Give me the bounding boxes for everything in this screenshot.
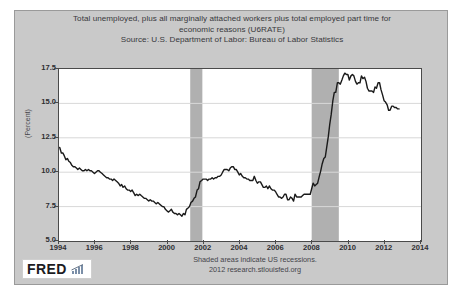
x-tick-label: 2008 (291, 243, 331, 252)
y-tick-label: 15.0 (22, 97, 56, 106)
plot-area (58, 68, 422, 242)
x-tick-label: 1994 (38, 243, 78, 252)
x-tick-label: 1998 (110, 243, 150, 252)
x-tick-label: 2012 (364, 243, 404, 252)
chart-source-line: Source: U.S. Department of Labor: Bureau… (22, 35, 442, 46)
y-tick-mark (54, 137, 58, 138)
y-tick-mark (54, 206, 58, 207)
x-tick-mark (311, 240, 312, 244)
y-tick-mark (54, 68, 58, 69)
chart-title-line-2: economic reasons (U6RATE) (22, 25, 442, 36)
x-tick-mark (58, 240, 59, 244)
x-tick-mark (239, 240, 240, 244)
x-tick-mark (130, 240, 131, 244)
x-tick-mark (348, 240, 349, 244)
x-tick-label: 2014 (400, 243, 440, 252)
y-tick-label: 17.5 (22, 63, 56, 72)
x-tick-label: 2000 (147, 243, 187, 252)
x-tick-label: 2004 (219, 243, 259, 252)
x-tick-label: 2006 (255, 243, 295, 252)
x-tick-mark (167, 240, 168, 244)
x-tick-label: 1996 (74, 243, 114, 252)
series-U6RATE (60, 73, 399, 216)
bar-chart-icon (71, 264, 84, 275)
footer-recession-note: Shaded areas indicate US recessions. (120, 255, 390, 265)
chart-title-block: Total unemployed, plus all marginally at… (22, 14, 442, 46)
fred-logo[interactable]: FRED (22, 259, 92, 279)
x-tick-label: 2002 (183, 243, 223, 252)
chart-title-line-1: Total unemployed, plus all marginally at… (22, 14, 442, 25)
x-tick-mark (203, 240, 204, 244)
fred-chart-screenshot: Total unemployed, plus all marginally at… (0, 0, 465, 295)
series-line (60, 73, 399, 216)
y-tick-mark (54, 102, 58, 103)
recession-bands (190, 69, 339, 241)
x-tick-mark (275, 240, 276, 244)
gridlines (59, 103, 421, 206)
recession-band (190, 69, 202, 241)
x-tick-label: 2010 (328, 243, 368, 252)
y-tick-label: 12.5 (22, 132, 56, 141)
x-tick-mark (94, 240, 95, 244)
x-tick-mark (384, 240, 385, 244)
fred-logo-text: FRED (27, 261, 67, 277)
y-tick-label: 10.0 (22, 166, 56, 175)
footer-attribution: 2012 research.stlouisfed.org (120, 265, 390, 275)
x-tick-mark (420, 240, 421, 244)
plot-svg (59, 69, 421, 241)
y-tick-mark (54, 171, 58, 172)
chart-footer: Shaded areas indicate US recessions. 201… (120, 255, 390, 275)
y-tick-label: 7.5 (22, 201, 56, 210)
